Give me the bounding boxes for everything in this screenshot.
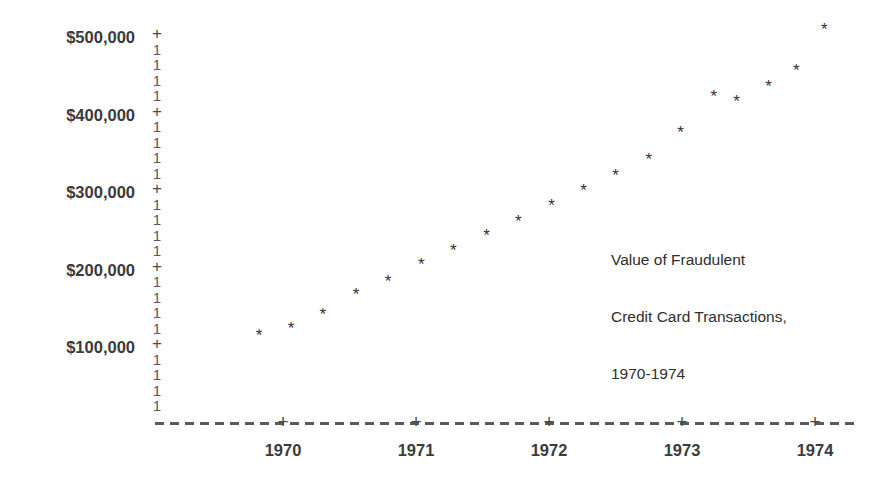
data-point-marker: * <box>416 259 427 270</box>
data-point-marker: * <box>731 96 742 107</box>
x-axis-tick-label: 1973 <box>637 441 727 460</box>
x-axis-line <box>155 422 855 425</box>
x-axis-tick-mark: + <box>672 412 692 431</box>
data-point-marker: * <box>610 170 621 181</box>
data-point-marker: * <box>791 65 802 76</box>
data-point-marker: * <box>578 185 589 196</box>
x-axis-tick-label: 1974 <box>770 441 860 460</box>
x-axis-tick-label: 1970 <box>238 441 328 460</box>
annotation-line-2: Credit Card Transactions, <box>611 307 787 326</box>
data-point-marker: * <box>819 24 830 35</box>
x-axis-tick-mark: + <box>539 412 559 431</box>
data-point-marker: * <box>254 330 265 341</box>
data-point-marker: * <box>317 309 328 320</box>
annotation-line-3: 1970-1974 <box>611 364 787 383</box>
data-point-marker: * <box>643 154 654 165</box>
chart-container: $100,000$200,000$300,000$400,000$500,000… <box>0 0 877 488</box>
annotation-line-1: Value of Fraudulent <box>611 250 787 269</box>
data-point-marker: * <box>351 289 362 300</box>
data-point-marker: * <box>481 230 492 241</box>
data-point-marker: * <box>448 245 459 256</box>
data-point-marker: * <box>763 81 774 92</box>
chart-annotation: Value of Fraudulent Credit Card Transact… <box>611 212 787 421</box>
x-axis-tick-label: 1971 <box>371 441 461 460</box>
data-point-marker: * <box>708 91 719 102</box>
data-point-marker: * <box>546 200 557 211</box>
x-axis-tick-label: 1972 <box>504 441 594 460</box>
x-axis-tick-mark: + <box>805 412 825 431</box>
data-point-marker: * <box>675 127 686 138</box>
data-point-marker: * <box>513 216 524 227</box>
x-axis-tick-mark: + <box>273 412 293 431</box>
data-point-marker: * <box>285 323 296 334</box>
x-axis-tick-mark: + <box>406 412 426 431</box>
data-point-marker: * <box>383 276 394 287</box>
